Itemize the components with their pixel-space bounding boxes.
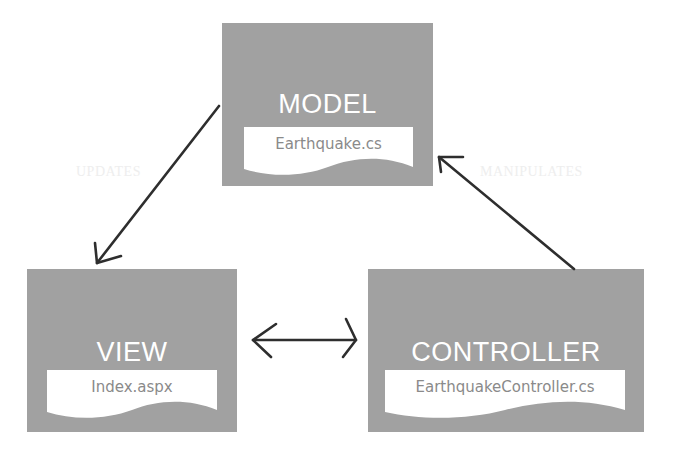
connector-arrows: [0, 0, 676, 455]
bidirectional-arrow-icon: [253, 319, 356, 357]
updates-arrow-icon: [95, 106, 219, 263]
manipulates-arrow-icon: [439, 157, 574, 269]
